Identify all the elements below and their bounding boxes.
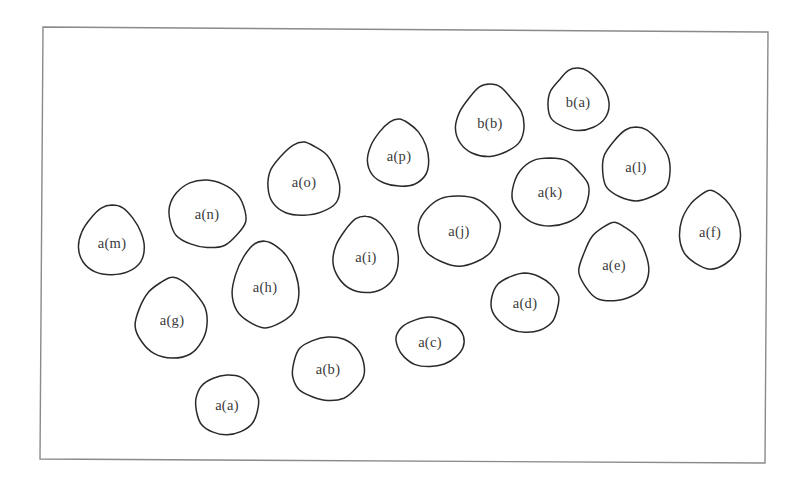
blob-label: b(a) xyxy=(566,94,591,111)
diagram-frame xyxy=(40,27,768,463)
blob-node-ad[interactable]: a(d) xyxy=(491,273,559,332)
blob-node-ap[interactable]: a(p) xyxy=(367,119,428,186)
blob-label: a(g) xyxy=(160,312,185,329)
blob-node-ac[interactable]: a(c) xyxy=(396,317,464,366)
blob-node-bb[interactable]: b(b) xyxy=(455,84,524,156)
blob-label: a(a) xyxy=(215,397,239,414)
blob-label: a(b) xyxy=(316,361,341,378)
blob-node-al[interactable]: a(l) xyxy=(602,127,670,201)
blob-label: a(d) xyxy=(513,295,538,312)
blob-diagram: a(a)a(b)a(c)a(d)a(e)a(f)a(g)a(h)a(i)a(j)… xyxy=(0,0,809,480)
blob-node-ak[interactable]: a(k) xyxy=(512,158,589,226)
blob-node-ag[interactable]: a(g) xyxy=(135,277,207,358)
blob-label: a(l) xyxy=(625,159,646,176)
blob-node-ba[interactable]: b(a) xyxy=(548,68,609,131)
blob-label: a(o) xyxy=(292,174,317,191)
blob-node-ae[interactable]: a(e) xyxy=(579,222,649,301)
blob-node-aj[interactable]: a(j) xyxy=(418,196,500,266)
blob-label: a(m) xyxy=(98,235,127,252)
blob-node-an[interactable]: a(n) xyxy=(169,180,246,248)
blob-label: a(j) xyxy=(448,223,469,240)
blob-label: a(e) xyxy=(602,257,626,274)
blob-label: b(b) xyxy=(477,115,502,132)
blob-label: a(p) xyxy=(387,148,412,165)
blob-node-af[interactable]: a(f) xyxy=(679,190,740,269)
blob-label: a(h) xyxy=(253,279,278,296)
blob-label: a(n) xyxy=(195,206,220,223)
blob-label: a(c) xyxy=(418,334,442,351)
blob-node-aa[interactable]: a(a) xyxy=(196,375,259,435)
blob-node-am[interactable]: a(m) xyxy=(78,205,144,275)
blob-node-ah[interactable]: a(h) xyxy=(232,241,299,328)
blob-node-ai[interactable]: a(i) xyxy=(333,216,398,292)
blob-node-ao[interactable]: a(o) xyxy=(268,142,340,215)
blob-label: a(f) xyxy=(699,224,721,241)
blob-label: a(i) xyxy=(355,249,376,266)
blob-node-ab[interactable]: a(b) xyxy=(292,337,364,401)
blob-nodes: a(a)a(b)a(c)a(d)a(e)a(f)a(g)a(h)a(i)a(j)… xyxy=(78,68,740,435)
blob-label: a(k) xyxy=(538,184,563,201)
